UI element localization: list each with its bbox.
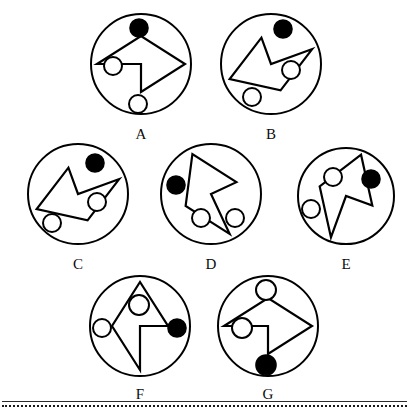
figure-a[interactable]: A (85, 12, 197, 146)
left-white-dot (302, 200, 320, 218)
figure-d[interactable]: D (155, 142, 267, 276)
right-black-dot (362, 170, 380, 188)
inner-white-dot (192, 209, 210, 227)
left-white-dot (104, 57, 122, 75)
figure-b-graphic (215, 12, 327, 124)
top-black-dot (274, 20, 292, 38)
figure-f-graphic (84, 272, 196, 384)
left-white-dot (232, 318, 252, 338)
figure-label-f: F (84, 386, 196, 402)
figure-e[interactable]: E (292, 146, 400, 276)
figure-label-a: A (85, 126, 197, 142)
right-white-dot (226, 209, 244, 227)
figure-g[interactable]: G (212, 272, 324, 406)
figure-label-b: B (215, 126, 327, 142)
top-black-dot (130, 19, 148, 37)
inner-white-dot (324, 168, 342, 186)
inner-white-dot (129, 295, 149, 315)
top-black-dot (86, 154, 104, 172)
bottom-white-dot (243, 88, 261, 106)
bottom-black-dot (256, 355, 276, 375)
right-white-dot (282, 61, 300, 79)
figure-label-e: E (292, 256, 400, 272)
right-white-dot (88, 193, 106, 211)
left-black-dot (167, 176, 185, 194)
left-white-dot (93, 319, 111, 337)
figure-c[interactable]: C (22, 142, 134, 276)
figure-g-graphic (212, 272, 324, 384)
figure-a-graphic (85, 12, 197, 124)
figure-b[interactable]: B (215, 12, 327, 146)
dotted-separator (2, 405, 407, 407)
right-black-dot (168, 319, 186, 337)
top-white-dot (256, 280, 276, 300)
figure-label-g: G (212, 386, 324, 402)
figure-e-graphic (292, 146, 400, 254)
puzzle-sheet: ABCDEFG (0, 0, 409, 412)
horizontal-rule (2, 401, 407, 402)
bottom-white-dot (129, 95, 147, 113)
figure-c-graphic (22, 142, 134, 254)
figure-d-graphic (155, 142, 267, 254)
figure-label-c: C (22, 256, 134, 272)
bottom-white-dot (43, 214, 61, 232)
figure-f[interactable]: F (84, 272, 196, 406)
figure-label-d: D (155, 256, 267, 272)
